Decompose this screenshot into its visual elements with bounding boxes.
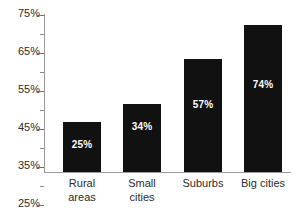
x-axis-label-line: Small <box>110 176 174 190</box>
bar-small-cities <box>123 104 161 172</box>
y-axis-tick-mark-minor <box>40 72 44 73</box>
y-axis-tick-mark <box>37 205 44 206</box>
y-axis-tick-mark-minor <box>40 34 44 35</box>
bar-big-cities <box>244 25 282 172</box>
bar-value-label: 25% <box>63 140 101 150</box>
x-axis-label-line: cities <box>110 190 174 204</box>
x-axis-label-suburbs: Suburbs <box>171 176 235 190</box>
y-axis-tick-mark <box>37 129 44 130</box>
y-axis-tick-label: 25% <box>18 198 40 209</box>
y-axis-tick-mark <box>37 91 44 92</box>
y-axis-tick-label: 75% <box>18 8 40 19</box>
bar-value-label: 34% <box>123 122 161 132</box>
y-axis-tick-mark-minor <box>40 148 44 149</box>
x-axis-label-rural-areas: Rural areas <box>50 176 114 204</box>
y-axis-tick-mark-minor <box>40 186 44 187</box>
bar-chart: 75% 65% 55% 45% 35% <box>0 0 301 213</box>
bar-value-label: 57% <box>184 100 222 110</box>
y-axis-tick-mark <box>37 53 44 54</box>
y-axis-tick-mark-minor <box>40 110 44 111</box>
y-axis-tick-label: 65% <box>18 46 40 57</box>
x-axis-label-line: Big cities <box>231 176 295 190</box>
x-axis-label-line: Suburbs <box>171 176 235 190</box>
x-axis-baseline <box>44 172 291 173</box>
bar-suburbs <box>184 59 222 172</box>
plot-area: 25% 34% 57% 74% <box>45 14 291 172</box>
y-axis-tick-mark <box>37 167 44 168</box>
y-axis-tick-label: 35% <box>18 160 40 171</box>
x-axis-label-small-cities: Small cities <box>110 176 174 204</box>
x-axis-label-big-cities: Big cities <box>231 176 295 190</box>
y-axis-tick-label: 45% <box>18 122 40 133</box>
y-axis-tick-mark <box>37 15 44 16</box>
x-axis: Rural areas Small cities Suburbs Big cit… <box>45 176 291 212</box>
x-axis-label-line: areas <box>50 190 114 204</box>
x-axis-label-line: Rural <box>50 176 114 190</box>
y-axis-tick-label: 55% <box>18 84 40 95</box>
bar-value-label: 74% <box>244 80 282 90</box>
